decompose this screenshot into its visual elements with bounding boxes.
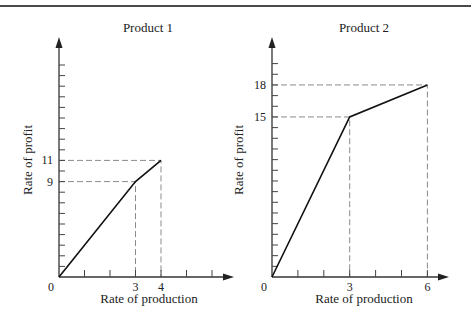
y-axis-arrow-icon — [56, 37, 63, 48]
chart-title: Product 2 — [339, 20, 389, 35]
x-tick-label: 3 — [347, 280, 353, 294]
figure: Product 1 Rate of production Rate of pro… — [0, 0, 471, 322]
y-tick-label: 11 — [41, 153, 53, 167]
x-tick-label: 6 — [424, 280, 430, 294]
y-tick-label: 9 — [47, 175, 53, 189]
x-tick-label: 4 — [158, 280, 164, 294]
x-axis-arrow-icon — [438, 274, 449, 281]
y-axis-label: Rate of profit — [231, 125, 246, 195]
profit-curve — [59, 160, 161, 277]
y-tick-label: 18 — [254, 78, 266, 92]
x-tick-label: 0 — [261, 280, 267, 294]
chart-product-2: Product 2 Rate of production Rate of pro… — [231, 20, 449, 306]
x-tick-label: 0 — [48, 280, 54, 294]
x-axis-label: Rate of production — [315, 291, 413, 306]
y-axis-arrow-icon — [269, 37, 276, 48]
y-axis-label: Rate of profit — [20, 125, 35, 195]
chart-product-1: Product 1 Rate of production Rate of pro… — [20, 20, 234, 306]
x-tick-label: 3 — [133, 280, 139, 294]
guide-line — [59, 160, 161, 277]
chart-title: Product 1 — [123, 20, 173, 35]
x-axis-arrow-icon — [223, 274, 234, 281]
x-axis-label: Rate of production — [100, 291, 198, 306]
y-tick-label: 15 — [254, 110, 266, 124]
